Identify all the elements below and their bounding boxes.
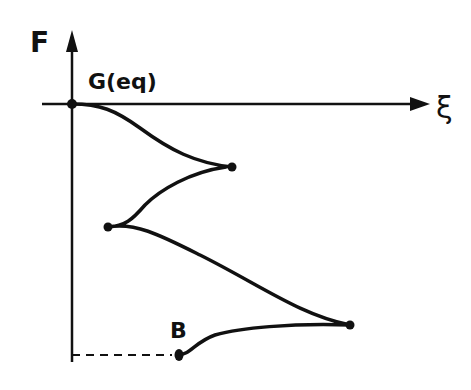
y-axis-arrowhead-icon (66, 30, 78, 52)
x-axis-label: ξ (436, 90, 453, 125)
energy-curve (72, 104, 350, 355)
start-label: G(eq) (88, 69, 157, 94)
point-cusp-2 (104, 223, 113, 232)
point-cusp-1 (228, 163, 237, 172)
free-energy-diagram: F ξ G(eq) B (0, 0, 471, 390)
point-b (175, 349, 184, 361)
end-label: B (170, 318, 187, 343)
x-axis-arrowhead-icon (410, 97, 430, 111)
point-g-eq (67, 99, 77, 109)
y-axis-label: F (30, 26, 49, 59)
point-cusp-3 (346, 321, 355, 330)
